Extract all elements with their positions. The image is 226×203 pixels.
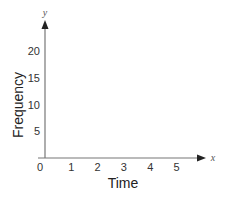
x-axis-arrow-icon <box>197 155 206 162</box>
x-tick-label: 5 <box>173 161 179 173</box>
x-tick-label: 4 <box>147 161 153 173</box>
y-tick-label: 15 <box>28 72 40 84</box>
x-tick-label: 1 <box>68 161 74 173</box>
y-tick-labels: 5101520 <box>28 45 40 137</box>
x-tick-label: 0 <box>37 161 43 173</box>
chart: y x 5101520 012345 Frequency Time <box>0 0 226 203</box>
y-axis-arrow-icon <box>42 20 49 29</box>
x-tick-labels: 012345 <box>37 161 180 173</box>
y-tick-label: 20 <box>28 45 40 57</box>
x-axis-variable: x <box>210 152 216 163</box>
y-axis-title: Frequency <box>10 72 26 138</box>
y-tick-label: 5 <box>34 125 40 137</box>
y-tick-label: 10 <box>28 99 40 111</box>
x-tick-label: 2 <box>95 161 101 173</box>
y-axis-variable: y <box>42 7 48 18</box>
x-axis-title: Time <box>108 175 139 191</box>
x-tick-label: 3 <box>121 161 127 173</box>
